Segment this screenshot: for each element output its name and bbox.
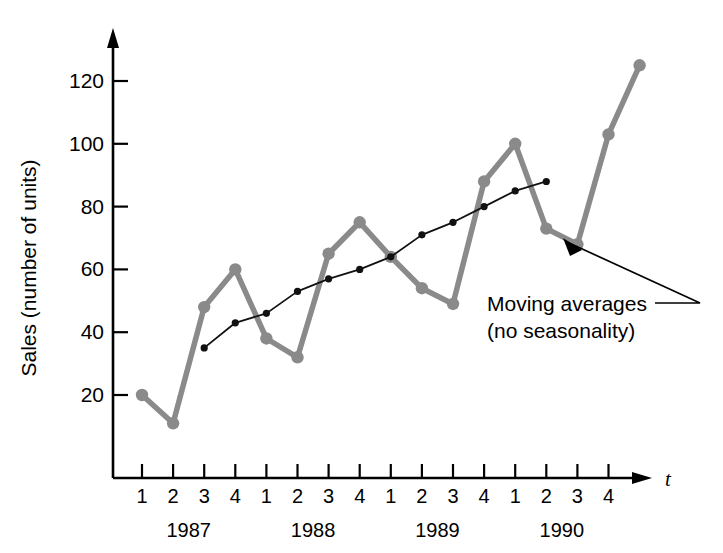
x-tick-label: 4 [479, 485, 490, 507]
sales-data-point [509, 138, 521, 150]
x-axis-arrow-icon [632, 472, 652, 484]
sales-data-point [354, 216, 366, 228]
year-label: 1989 [415, 519, 460, 541]
sales-data-point [136, 389, 148, 401]
x-tick-label: 2 [292, 485, 303, 507]
sales-data-point [540, 222, 552, 234]
moving-average-data-point [201, 344, 208, 351]
y-axis-label: Sales (number of units) [17, 159, 40, 376]
x-tick-label: 3 [199, 485, 210, 507]
y-tick-label: 120 [69, 69, 104, 92]
x-tick-label: 2 [416, 485, 427, 507]
y-tick-label: 40 [81, 320, 104, 343]
sales-line [142, 65, 640, 423]
moving-average-data-point [481, 203, 488, 210]
moving-average-data-point [418, 231, 425, 238]
x-axis-symbol-label: t [665, 467, 672, 491]
sales-data-point [478, 175, 490, 187]
year-label: 1987 [166, 519, 211, 541]
year-label: 1990 [540, 519, 585, 541]
x-tick-label: 4 [230, 485, 241, 507]
sales-data-point [291, 351, 303, 363]
x-tick-label: 2 [541, 485, 552, 507]
annotation-line-1: Moving averages [487, 292, 647, 315]
y-axis-arrow-icon [107, 28, 119, 48]
y-tick-label: 80 [81, 195, 104, 218]
sales-data-point [416, 282, 428, 294]
y-tick-label: 60 [81, 257, 104, 280]
moving-average-data-point [449, 219, 456, 226]
y-tick-group: 20406080100120 [69, 69, 128, 406]
annotation-line-2: (no seasonality) [487, 319, 635, 342]
sales-data-point [633, 59, 645, 71]
year-label-group: 1987198819891990 [166, 519, 584, 541]
x-tick-label: 1 [510, 485, 521, 507]
x-tick-label: 1 [136, 485, 147, 507]
x-tick-label: 3 [447, 485, 458, 507]
year-label: 1988 [291, 519, 336, 541]
y-tick-label: 20 [81, 383, 104, 406]
x-tick-label: 2 [168, 485, 179, 507]
x-tick-label: 4 [354, 485, 365, 507]
x-tick-label: 4 [603, 485, 614, 507]
y-tick-label: 100 [69, 132, 104, 155]
moving-average-data-point [543, 178, 550, 185]
sales-data-point [198, 301, 210, 313]
moving-average-data-point [512, 187, 519, 194]
sales-data-point [229, 263, 241, 275]
x-tick-label: 3 [323, 485, 334, 507]
moving-average-data-point [294, 288, 301, 295]
moving-average-data-point [325, 275, 332, 282]
sales-data-point [322, 248, 334, 260]
moving-average-data-point [387, 253, 394, 260]
moving-average-data-point [263, 310, 270, 317]
sales-data-point [260, 332, 272, 344]
moving-average-data-point [232, 319, 239, 326]
x-tick-label: 1 [261, 485, 272, 507]
x-tick-label: 1 [385, 485, 396, 507]
sales-data-point [167, 417, 179, 429]
x-tick-group: 1234123412341234 [136, 464, 614, 507]
sales-moving-average-chart: Sales (number of units) t 20406080100120… [0, 0, 723, 553]
sales-data-point [602, 128, 614, 140]
x-tick-label: 3 [572, 485, 583, 507]
annotation-moving-averages: Moving averages (no seasonality) [487, 292, 647, 342]
moving-average-data-point [356, 266, 363, 273]
sales-data-point [447, 298, 459, 310]
y-axis [107, 28, 119, 478]
